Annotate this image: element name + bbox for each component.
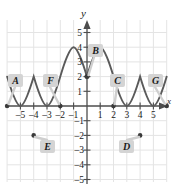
y-axis-label: y [80,7,86,19]
svg-text:1: 1 [77,87,82,97]
svg-text:–2: –2 [74,131,85,141]
svg-text:3: 3 [77,57,82,67]
svg-text:2: 2 [77,72,82,82]
callout-label-G[interactable]: G [148,74,163,87]
svg-text:5: 5 [151,110,156,120]
callout-label-C[interactable]: C [110,74,125,87]
leader-C [115,87,118,104]
svg-text:–5: –5 [74,175,85,185]
x-tick-labels: –5 –4 –3 –2 –1 1 2 3 4 5 [15,110,156,120]
callout-label-A[interactable]: A [8,74,23,87]
svg-text:5: 5 [77,28,82,38]
svg-text:–2: –2 [55,110,66,120]
callout-label-F[interactable]: F [43,74,58,87]
graph-figure: y x –5 –4 –3 –2 –1 1 2 3 4 5 5 4 3 2 1 –… [0,0,174,189]
coordinate-plane: y x –5 –4 –3 –2 –1 1 2 3 4 5 5 4 3 2 1 –… [0,0,174,189]
svg-text:–1: –1 [74,116,85,126]
svg-text:–3: –3 [41,110,52,120]
svg-text:–4: –4 [74,160,85,170]
svg-text:–3: –3 [74,145,85,155]
svg-text:1: 1 [98,110,103,120]
axis-arrowheads [83,20,168,110]
svg-text:3: 3 [124,110,129,120]
svg-text:4: 4 [138,110,143,120]
svg-text:–5: –5 [15,110,26,120]
callout-label-E[interactable]: E [40,140,55,153]
svg-text:4: 4 [77,43,82,53]
callout-label-D[interactable]: D [119,140,134,153]
x-axis-label: x [166,96,171,106]
svg-text:–4: –4 [28,110,39,120]
svg-text:2: 2 [111,110,116,120]
callout-label-B[interactable]: B [88,44,103,57]
